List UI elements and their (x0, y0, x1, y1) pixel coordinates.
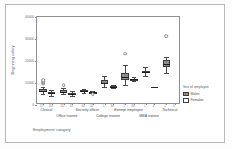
y-tick-mark (35, 105, 37, 106)
x-n-count: 110 (48, 105, 52, 108)
median-line (163, 64, 171, 65)
x-n-count: 227 (40, 105, 44, 108)
median-line (121, 77, 129, 78)
y-tick-mark (35, 83, 37, 84)
x-n-count: 6 (173, 105, 175, 108)
y-axis-title: Beginning salary (10, 16, 19, 104)
plot-area: 010000200003000040000 (36, 16, 180, 104)
boxplot-figure: Beginning salary 010000200003000040000 C… (0, 0, 232, 149)
whisker-cap (143, 76, 148, 77)
x-n-count: 1 (123, 105, 125, 108)
x-n-count: 84 (111, 105, 114, 108)
x-category-label: MBA trainee (139, 114, 159, 118)
x-n-count: 41 (70, 105, 73, 108)
x-n-count: 1 (165, 105, 167, 108)
outlier-point (123, 52, 127, 56)
whisker-cap (123, 85, 128, 86)
legend: Sex of employee Males Females (183, 85, 223, 105)
whisker-cap (41, 94, 46, 95)
x-category-label: Security officer (76, 108, 100, 112)
median-line (130, 79, 138, 80)
x-n-count: 80 (131, 105, 134, 108)
outlier-point (62, 83, 66, 87)
whisker-cap (102, 76, 107, 77)
x-n-count: 1 (103, 105, 105, 108)
legend-swatch-males (183, 92, 189, 97)
y-tick-mark (35, 39, 37, 40)
median-line (80, 91, 88, 92)
y-tick-mark (35, 61, 37, 62)
median-line (101, 83, 109, 84)
whisker-cap (70, 96, 75, 97)
legend-label-males: Males (191, 92, 200, 96)
x-category-label: College trainee (96, 114, 120, 118)
x-category-label: Office trainee (56, 114, 77, 118)
legend-item-males: Males (183, 92, 223, 97)
whisker-cap (70, 91, 75, 92)
box-flat-line (151, 87, 159, 88)
outlier-point (91, 93, 95, 97)
median-line (48, 93, 56, 94)
median-line (60, 92, 68, 93)
whisker-cap (111, 88, 116, 89)
whisker-cap (164, 73, 169, 74)
x-n-count: 32 (90, 105, 93, 108)
x-category-label: Exempt employee (114, 108, 143, 112)
whisker-cap (61, 94, 66, 95)
whisker-cap (102, 87, 107, 88)
median-line (142, 72, 150, 73)
median-line (110, 87, 118, 88)
outlier-point (165, 35, 169, 39)
whisker-cap (164, 57, 169, 58)
legend-swatch-females (183, 98, 189, 103)
x-category-label: Clerical (40, 108, 52, 112)
x-n-count: 4 (153, 105, 155, 108)
whisker-cap (123, 65, 128, 66)
whisker-cap (132, 81, 137, 82)
y-tick-mark (35, 17, 37, 18)
x-n-count: 60 (82, 105, 85, 108)
whisker-cap (49, 90, 54, 91)
x-axis-title: Employment category (33, 127, 71, 132)
whisker-cap (61, 88, 66, 89)
median-line (68, 94, 76, 95)
x-category-label: Technical (162, 108, 177, 112)
x-n-count: 1 (144, 105, 146, 108)
whisker-cap (143, 67, 148, 68)
x-n-count: 111 (60, 105, 64, 108)
whisker-cap (82, 93, 87, 94)
outlier-point (41, 78, 45, 82)
whisker-cap (49, 96, 54, 97)
whisker-cap (41, 87, 46, 88)
legend-title: Sex of employee (183, 85, 223, 89)
legend-label-females: Females (191, 98, 204, 102)
legend-item-females: Females (183, 98, 223, 103)
median-line (39, 91, 47, 92)
